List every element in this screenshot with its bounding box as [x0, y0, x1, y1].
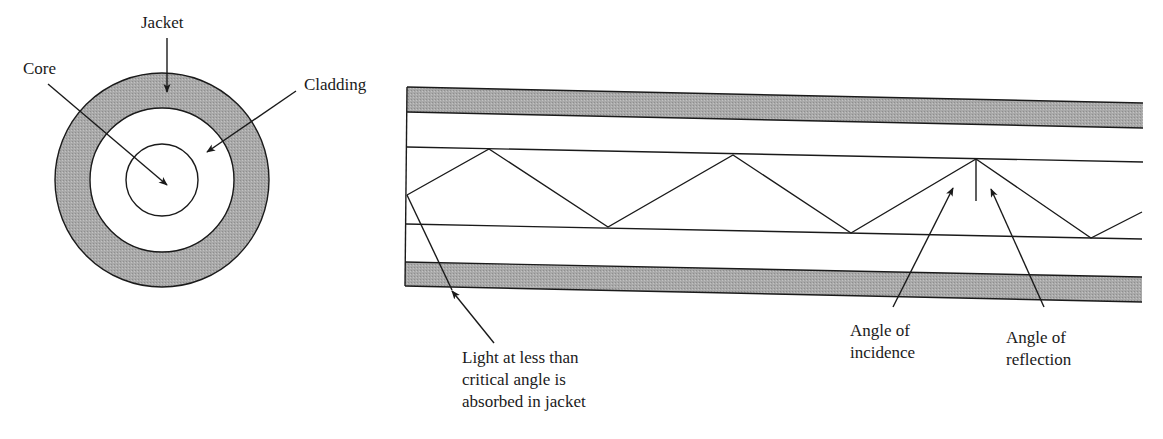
angle-of-incidence-label: Angle of incidence — [850, 320, 915, 364]
core-top-boundary — [407, 147, 1143, 162]
bottom-jacket-band — [405, 262, 1142, 302]
reflection-label-line-2: reflection — [1006, 349, 1071, 371]
core-label: Core — [23, 58, 56, 80]
top-jacket-band — [407, 87, 1143, 128]
incidence-label-line-2: incidence — [850, 342, 915, 364]
reflection-label-line-1: Angle of — [1006, 327, 1071, 349]
fiber-cross-section — [48, 38, 296, 287]
fiber-longitudinal-view — [405, 87, 1143, 343]
absorbed-label-line-2: critical angle is — [462, 369, 586, 391]
fiber-end-face — [405, 87, 407, 286]
core-bottom-boundary — [406, 224, 1142, 239]
angle-of-reflection-label: Angle of reflection — [1006, 327, 1071, 371]
absorbed-label-line-1: Light at less than — [462, 347, 586, 369]
jacket-label: Jacket — [141, 12, 183, 34]
cladding-label: Cladding — [304, 74, 366, 96]
incidence-label-line-1: Angle of — [850, 320, 915, 342]
light-ray-path — [407, 149, 1142, 238]
absorbed-light-label: Light at less than critical angle is abs… — [462, 347, 586, 413]
absorbed-label-line-3: absorbed in jacket — [462, 391, 586, 413]
absorbed-pointer-arrow — [452, 291, 494, 343]
